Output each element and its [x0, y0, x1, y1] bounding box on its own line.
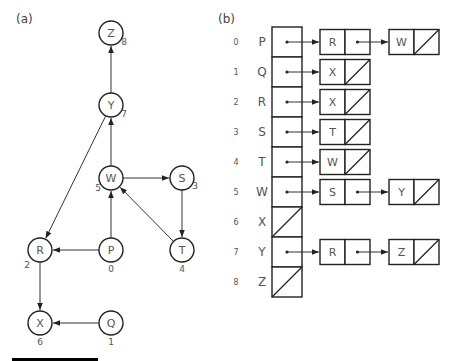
list-node-value: X [329, 66, 337, 79]
graph-figure: (a) P0Q1R2S3T4W5X6Y7Z8 (b) 0P1Q2R3S4T5W6… [0, 0, 454, 361]
vertex-index: 7 [121, 109, 127, 119]
vertex-Q: Q1 [99, 311, 123, 347]
row-vertex-label: W [256, 185, 268, 199]
panel-a-directed-graph: (a) P0Q1R2S3T4W5X6Y7Z8 [12, 12, 198, 361]
row-index: 4 [233, 158, 238, 167]
vertex-label: Q [107, 317, 116, 330]
list-node-W: W [389, 30, 439, 55]
vertex-S: S3 [170, 166, 198, 191]
vertex-label: R [36, 244, 44, 257]
list-node-value: T [328, 126, 336, 139]
edge-T-to-W [120, 187, 173, 241]
vertex-T: T4 [170, 238, 194, 274]
list-node-value: R [329, 246, 337, 259]
vertex-label: T [178, 244, 186, 257]
list-node-value: X [329, 96, 337, 109]
vertex-index: 5 [95, 183, 101, 193]
row-index: 6 [233, 218, 238, 227]
array-row-X: 6X [233, 207, 302, 237]
vertex-index: 6 [37, 337, 43, 347]
panel-b-label: (b) [218, 12, 235, 26]
vertex-label: X [36, 317, 44, 330]
vertex-index: 0 [108, 264, 114, 274]
array-row-T: 4T [233, 147, 319, 177]
list-node-value: R [329, 36, 337, 49]
array-row-P: 0P [233, 27, 319, 57]
list-node-W: W [320, 150, 370, 175]
vertex-R: R2 [24, 238, 52, 270]
adjacency-lists: RWXXTWSYRZ [320, 30, 439, 265]
list-node-R: R [320, 30, 388, 55]
row-vertex-label: Z [258, 275, 266, 289]
vertex-Z: Z8 [99, 21, 127, 47]
row-index: 7 [233, 248, 238, 257]
row-index: 0 [233, 38, 238, 47]
vertex-index: 3 [192, 181, 198, 191]
vertex-label: W [106, 172, 117, 185]
edge-Y-to-R [46, 116, 106, 239]
list-node-value: W [327, 156, 338, 169]
array-row-R: 2R [233, 87, 319, 117]
list-node-value: Y [397, 186, 405, 199]
list-node-X: X [320, 60, 370, 85]
list-node-value: Z [398, 246, 406, 259]
row-index: 8 [233, 278, 238, 287]
list-node-X: X [320, 90, 370, 115]
row-index: 2 [233, 98, 238, 107]
row-vertex-label: X [258, 215, 266, 229]
vertex-W: W5 [95, 166, 123, 193]
list-node-Z: Z [389, 240, 439, 265]
vertex-index: 4 [179, 264, 185, 274]
list-node-value: W [396, 36, 407, 49]
array-row-Y: 7Y [233, 237, 319, 267]
list-node-S: S [320, 180, 388, 205]
adjacency-array: 0P1Q2R3S4T5W6X7Y8Z [233, 27, 319, 297]
row-vertex-label: T [257, 155, 266, 169]
vertex-index: 2 [24, 260, 30, 270]
array-row-Z: 8Z [233, 267, 302, 297]
row-index: 1 [233, 68, 238, 77]
row-vertex-label: S [258, 125, 266, 139]
vertex-index: 8 [121, 37, 127, 47]
panel-b-adjacency-list: (b) 0P1Q2R3S4T5W6X7Y8Z RWXXTWSYRZ [218, 12, 439, 297]
list-node-Y: Y [389, 180, 439, 205]
array-row-S: 3S [233, 117, 319, 147]
list-node-value: S [329, 186, 336, 199]
vertex-label: Z [107, 27, 115, 40]
row-vertex-label: Y [257, 245, 266, 259]
vertex-label: P [108, 244, 115, 257]
vertex-Y: Y7 [99, 93, 127, 119]
list-node-T: T [320, 120, 370, 145]
row-vertex-label: Q [257, 65, 266, 79]
row-vertex-label: R [258, 95, 266, 109]
panel-a-label: (a) [16, 12, 33, 26]
vertex-index: 1 [108, 337, 114, 347]
vertex-X: X6 [28, 311, 52, 347]
row-index: 3 [233, 128, 238, 137]
list-node-R: R [320, 240, 388, 265]
vertex-label: S [179, 172, 186, 185]
row-index: 5 [233, 188, 238, 197]
array-row-Q: 1Q [233, 57, 319, 87]
row-vertex-label: P [258, 35, 265, 49]
vertex-label: Y [107, 99, 115, 112]
vertex-P: P0 [99, 238, 123, 274]
array-row-W: 5W [233, 177, 319, 207]
